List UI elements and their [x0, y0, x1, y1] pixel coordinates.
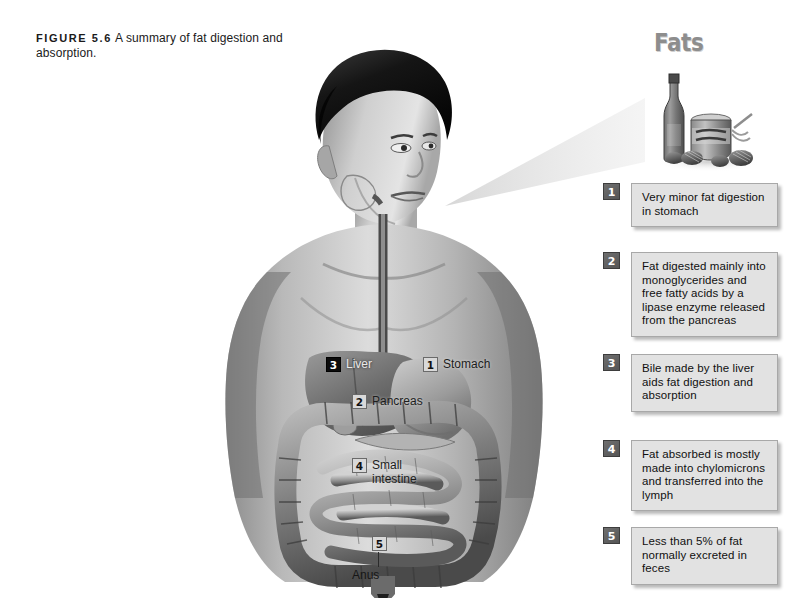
- callout-number-3: 3: [603, 354, 620, 371]
- organ-name-liver: Liver: [346, 357, 372, 371]
- callout-text-4: Fat absorbed is mostly made into chylomi…: [631, 440, 778, 511]
- organ-label-pancreas: 2 Pancreas: [352, 394, 423, 409]
- callout-text-3: Bile made by the liver aids fat digestio…: [631, 354, 778, 412]
- organ-name-small-intestine: Small intestine: [372, 458, 428, 486]
- figure-page: FIGURE 5.6 A summary of fat digestion an…: [0, 0, 807, 612]
- human-digestive-illustration: [205, 28, 565, 598]
- organ-marker-4: 4: [352, 458, 367, 473]
- callout-number-2: 2: [603, 252, 620, 269]
- organ-label-liver: 3 Liver: [326, 357, 372, 372]
- organ-name-pancreas: Pancreas: [372, 394, 423, 408]
- organ-marker-3: 3: [326, 357, 341, 372]
- organ-label-anus-marker: 5: [372, 536, 387, 551]
- organ-name-stomach: Stomach: [443, 357, 490, 371]
- organ-name-anus: Anus: [352, 568, 379, 582]
- anus-leader-line: [378, 552, 379, 567]
- organ-label-small-intestine: 4 Small intestine: [352, 458, 428, 486]
- organ-label-stomach: 1 Stomach: [423, 357, 490, 372]
- callout-number-1: 1: [603, 183, 620, 200]
- callout-text-5: Less than 5% of fat normally excreted in…: [631, 527, 778, 585]
- callout-text-2: Fat digested mainly into monoglycerides …: [631, 252, 778, 337]
- organ-marker-5: 5: [372, 536, 387, 551]
- organ-marker-2: 2: [352, 394, 367, 409]
- callout-number-4: 4: [603, 440, 620, 457]
- callout-text-1: Very minor fat digestion in stomach: [631, 183, 778, 227]
- organ-marker-1: 1: [423, 357, 438, 372]
- figure-number: FIGURE 5.6: [36, 32, 112, 44]
- fats-heading: Fats: [654, 28, 703, 57]
- callout-number-5: 5: [603, 527, 620, 544]
- fats-food-illustration: [648, 62, 768, 174]
